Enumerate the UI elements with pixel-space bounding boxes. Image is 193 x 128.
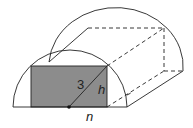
back-arc — [49, 8, 183, 71]
cross-section-rect — [31, 66, 107, 107]
diagram: 3 h n — [0, 0, 193, 128]
top-edge — [49, 28, 88, 62]
center-point — [67, 105, 71, 109]
width-label: n — [86, 109, 93, 124]
half-cylinder-figure: 3 h n — [0, 0, 193, 128]
height-label: h — [98, 82, 105, 97]
radius-label: 3 — [77, 77, 84, 92]
